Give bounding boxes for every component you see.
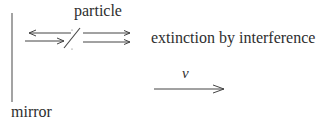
particle-dot-top bbox=[71, 29, 72, 30]
transmitted-arrow-lower bbox=[83, 40, 130, 45]
velocity-arrow bbox=[154, 85, 224, 93]
particle-dot-bottom bbox=[71, 48, 72, 49]
incident-arrow bbox=[25, 38, 64, 44]
transmitted-arrow-upper bbox=[83, 31, 130, 36]
extinction-label: extinction by interference bbox=[151, 30, 315, 46]
mirror-label: mirror bbox=[11, 104, 52, 120]
particle-slash bbox=[64, 28, 80, 48]
particle-label: particle bbox=[74, 3, 122, 19]
reflected-arrow bbox=[29, 30, 71, 36]
velocity-label: v bbox=[182, 66, 189, 81]
